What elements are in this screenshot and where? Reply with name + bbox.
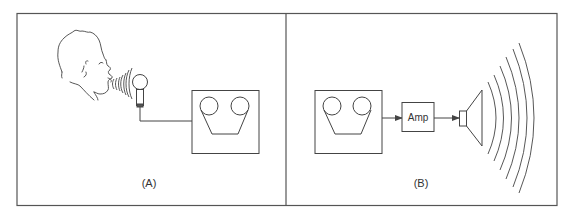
mic-cable	[140, 107, 192, 121]
outer-frame	[17, 14, 557, 206]
panel-b-label: (B)	[414, 177, 429, 189]
loudspeaker-icon	[460, 90, 483, 146]
tape-recorder-a-icon	[192, 91, 259, 154]
speaker-sound-waves-icon	[488, 43, 534, 193]
tape-recorder-b-icon	[315, 91, 382, 154]
person-head-icon	[58, 30, 112, 100]
amplifier-label: Amp	[408, 112, 429, 123]
panel-a-label: (A)	[142, 177, 157, 189]
recording-playback-diagram: (A) Amp	[0, 0, 573, 217]
panel-a: (A)	[58, 30, 259, 189]
amplifier-box: Amp	[402, 103, 434, 132]
voice-sound-waves-icon	[113, 68, 133, 99]
microphone-icon	[133, 75, 148, 108]
panel-b: Amp (B)	[315, 43, 534, 193]
